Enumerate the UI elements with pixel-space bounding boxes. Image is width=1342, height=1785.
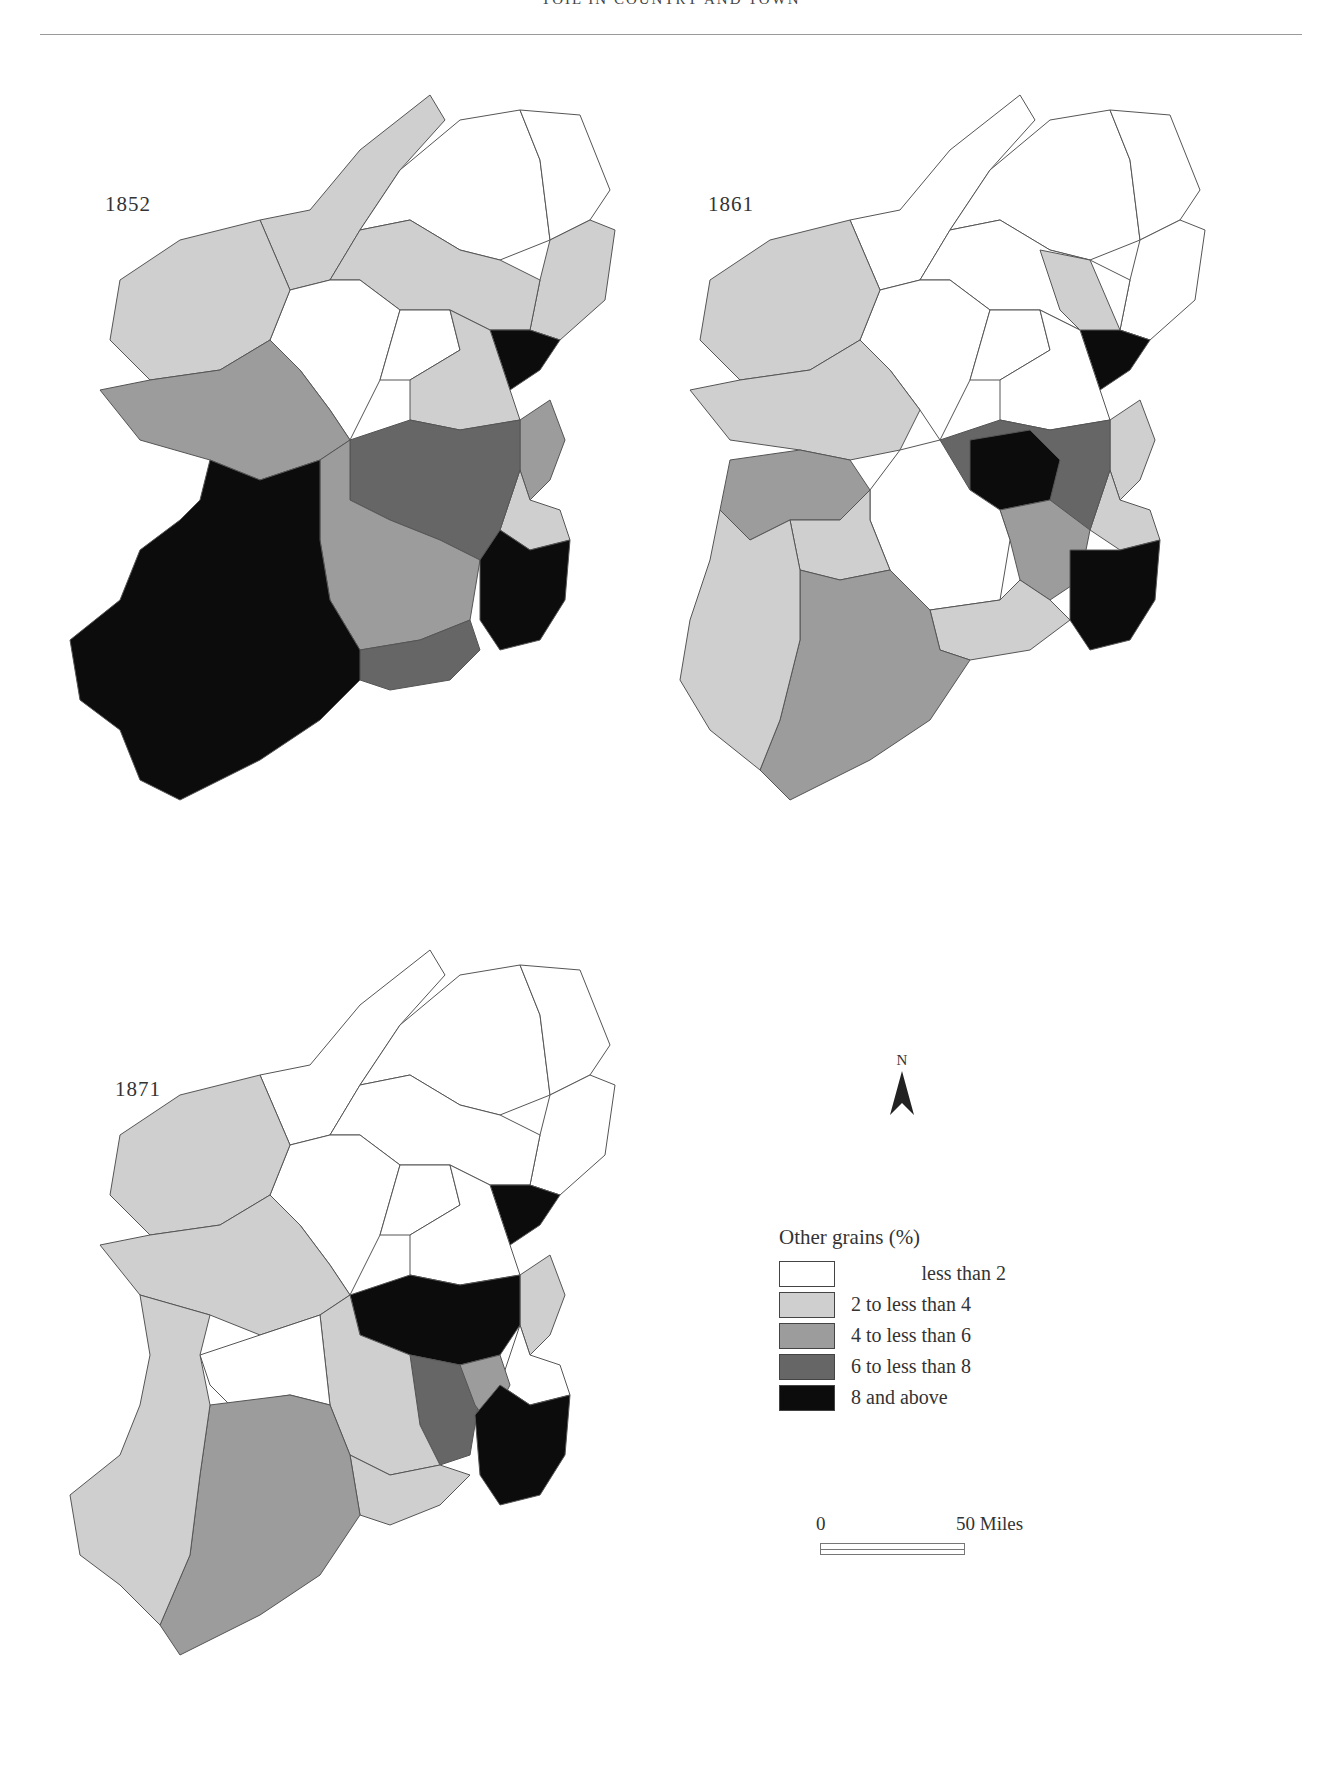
- legend-label: 8 and above: [851, 1386, 948, 1409]
- legend-swatch-white: [779, 1261, 835, 1287]
- north-arrow: N: [887, 1052, 917, 1121]
- legend-item: 4 to less than 6: [779, 1320, 1006, 1351]
- running-head: TOIL IN COUNTRY AND TOWN: [0, 0, 1342, 8]
- scale-bar-graphic: [820, 1543, 965, 1555]
- legend-item: less than 2: [779, 1258, 1006, 1289]
- legend-swatch-light: [779, 1292, 835, 1318]
- legend-label: 6 to less than 8: [851, 1355, 971, 1378]
- legend-swatch-medium: [779, 1323, 835, 1349]
- scale-end-label: 50 Miles: [956, 1513, 1023, 1535]
- map-1861: [670, 80, 1250, 840]
- ireland-map-1861: [670, 80, 1250, 840]
- legend: Other grains (%) less than 2 2 to less t…: [779, 1225, 1006, 1413]
- year-label-1852: 1852: [105, 192, 151, 217]
- scale-bar: 0 50 Miles: [816, 1513, 1076, 1555]
- scale-start-label: 0: [816, 1513, 826, 1535]
- year-label-1871: 1871: [115, 1077, 161, 1102]
- legend-item: 6 to less than 8: [779, 1351, 1006, 1382]
- north-arrow-icon: [887, 1069, 917, 1117]
- legend-title: Other grains (%): [779, 1225, 1006, 1250]
- legend-swatch-black: [779, 1385, 835, 1411]
- map-1871: [60, 935, 640, 1695]
- north-letter: N: [887, 1052, 917, 1069]
- year-label-1861: 1861: [708, 192, 754, 217]
- legend-swatch-dark: [779, 1354, 835, 1380]
- legend-label: less than 2: [851, 1262, 1006, 1285]
- header-rule: [40, 34, 1302, 35]
- legend-item: 8 and above: [779, 1382, 1006, 1413]
- legend-item: 2 to less than 4: [779, 1289, 1006, 1320]
- legend-label: 2 to less than 4: [851, 1293, 971, 1316]
- ireland-map-1871: [60, 935, 640, 1695]
- legend-label: 4 to less than 6: [851, 1324, 971, 1347]
